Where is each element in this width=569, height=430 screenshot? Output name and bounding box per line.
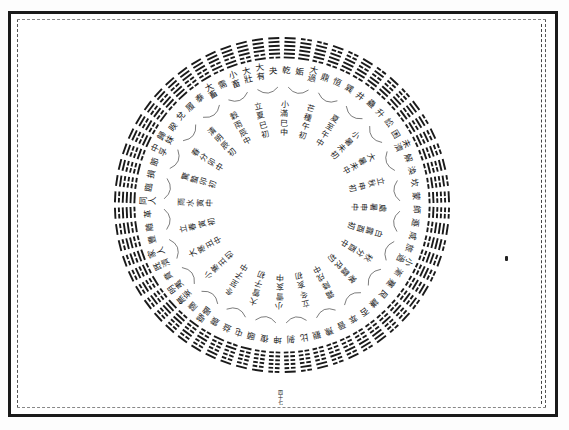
- connector-arc: [368, 269, 381, 285]
- hexagram-icon: [428, 191, 450, 203]
- hexagram-name-label: 遯: [410, 216, 420, 227]
- hexagram-icon: [412, 263, 436, 282]
- hexagram-circle-diagram: 乾姤大過鼎恒巽井蠱升訟困未濟解渙坎蒙師遯咸旅小過漸蹇艮謙否萃晉豫觀比剝坤復頤屯益…: [0, 0, 569, 430]
- hexagram-name-label: 解: [401, 150, 414, 163]
- solar-term-label: 大雪子初: [248, 269, 267, 308]
- hexagram-name-label: 訟: [381, 115, 395, 129]
- hexagram-name-label: 萃: [347, 312, 361, 326]
- connector-arc: [257, 87, 277, 93]
- hexagram-name-label: 夬: [267, 66, 277, 76]
- svg-text:處: 處: [378, 204, 388, 212]
- hexagram-name-label: 兌: [173, 110, 187, 124]
- hexagram-icon: [115, 175, 138, 189]
- hexagram-name-label: 臨: [143, 183, 154, 194]
- hexagram-name-label: 艮: [377, 286, 390, 299]
- connector-arc: [183, 125, 196, 141]
- svg-text:雨: 雨: [177, 198, 186, 206]
- hexagram-name-label: 姤: [293, 66, 304, 77]
- hexagram-icon: [312, 41, 328, 64]
- solar-term-label: 穀雨辰中: [228, 110, 253, 148]
- hexagram-icon: [236, 41, 252, 64]
- svg-text:中: 中: [280, 127, 288, 137]
- connector-arc: [318, 93, 337, 102]
- hexagram-name-label: 損: [145, 170, 157, 182]
- hexagram-icon: [284, 351, 296, 373]
- hexagram-icon: [122, 143, 146, 161]
- solar-term-label: 寒露戌初: [326, 252, 358, 285]
- hexagram-icon: [418, 143, 442, 161]
- connector-arc: [386, 151, 395, 170]
- hexagram-name-label: 渙: [406, 163, 418, 175]
- hexagram-icon: [405, 276, 429, 296]
- hexagram-name-label: 隨: [187, 300, 201, 314]
- hexagram-icon: [418, 249, 442, 267]
- hexagram-name-label: 坤: [274, 334, 284, 344]
- margin-ink-mark: [505, 256, 508, 261]
- hexagram-name-label: 比: [299, 332, 310, 343]
- connector-arc: [202, 291, 218, 304]
- hexagram-icon: [135, 276, 159, 296]
- svg-text:中: 中: [276, 273, 284, 283]
- hexagram-icon: [118, 235, 141, 251]
- hexagram-icon: [205, 51, 224, 75]
- hexagram-icon: [236, 346, 252, 369]
- hexagram-name-label: 泰: [192, 92, 206, 106]
- solar-term-label: 小暑未初: [329, 130, 362, 162]
- hexagram-icon: [205, 335, 224, 359]
- svg-text:寅: 寅: [195, 199, 205, 207]
- hexagram-icon: [191, 58, 211, 82]
- svg-text:水: 水: [185, 198, 195, 206]
- connector-arc: [164, 178, 170, 198]
- hexagram-name-label: 復: [260, 333, 271, 344]
- hexagram-name-label: 剝: [287, 334, 297, 344]
- page-number: 四十七: [262, 390, 282, 405]
- connector-arc: [203, 105, 219, 118]
- svg-text:中: 中: [204, 199, 214, 207]
- hexagram-icon: [135, 114, 159, 134]
- connector-arc: [370, 126, 383, 142]
- hexagram-name-label: 晉: [336, 318, 349, 330]
- hexagram-ring: [114, 37, 450, 373]
- hexagram-name-label: 豫: [324, 324, 337, 337]
- hexagram-icon: [114, 207, 136, 219]
- hexagram-name-label: 漸: [392, 264, 405, 277]
- hexagram-name-label: 鼎: [318, 72, 330, 84]
- hexagram-name-label: 巽: [341, 82, 354, 95]
- connector-arc: [394, 211, 400, 231]
- connector-arc: [385, 241, 394, 260]
- hexagram-name-label: 頤: [247, 330, 259, 341]
- hexagram-name-label: 蠱: [363, 96, 377, 110]
- connector-arc: [169, 239, 178, 258]
- hexagram-name-label: 小畜: [226, 69, 242, 90]
- hexagram-name-label: 益: [221, 321, 234, 334]
- solar-term-label: 霜降戌中: [311, 263, 336, 300]
- connector-arc: [286, 317, 306, 323]
- svg-text:初: 初: [294, 270, 304, 282]
- hexagram-icon: [114, 191, 136, 203]
- connector-arc: [288, 87, 308, 93]
- hexagram-icon: [284, 37, 296, 59]
- solar-term-label: 雨水寅中: [177, 198, 215, 207]
- hexagram-icon: [298, 38, 312, 61]
- hexagram-icon: [122, 249, 146, 267]
- hexagram-name-label: 乾: [280, 65, 290, 75]
- svg-text:亥: 亥: [276, 282, 284, 292]
- hexagram-icon: [426, 175, 449, 189]
- solar-term-label: 白露酉初: [346, 220, 385, 239]
- hexagram-name-label: 坎: [409, 176, 420, 187]
- connector-arc: [316, 309, 335, 318]
- solar-term-label: 小寒丑初: [203, 249, 236, 281]
- hexagram-name-label: 觀: [312, 329, 324, 341]
- svg-text:滿: 滿: [280, 108, 288, 118]
- hexagram-icon: [423, 235, 446, 251]
- connector-arc: [255, 317, 275, 323]
- hexagram-icon: [220, 45, 238, 69]
- solar-term-label: 立春寅初: [178, 217, 217, 234]
- solar-term-label: 冬至子中: [223, 261, 250, 298]
- solar-term-label: 大暑未中: [340, 151, 378, 176]
- connector-arc: [170, 150, 179, 169]
- hexagram-icon: [353, 58, 373, 82]
- hexagram-icon: [326, 45, 344, 69]
- connector-arc: [182, 268, 195, 284]
- hexagram-icon: [326, 341, 344, 365]
